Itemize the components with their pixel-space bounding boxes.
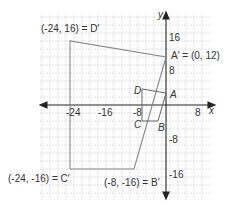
y-tick-label: -16 bbox=[169, 169, 184, 180]
y-tick-label: -8 bbox=[169, 134, 178, 145]
point-label-a: A bbox=[169, 89, 177, 100]
y-tick-label: 16 bbox=[169, 32, 181, 43]
y-axis-down-arrow-icon bbox=[163, 192, 169, 199]
x-tick-label: -16 bbox=[98, 107, 113, 118]
point-label-b-prime: (-8, -16) = B′ bbox=[104, 177, 160, 188]
y-axis-label: y bbox=[157, 9, 164, 20]
point-label-d-prime: (-24, 16) = D′ bbox=[41, 23, 99, 34]
point-label-d: D bbox=[134, 85, 141, 96]
point-label-c-prime: (-24, -16) = C′ bbox=[8, 173, 70, 184]
x-axis-left-arrow-icon bbox=[40, 102, 47, 108]
point-label-b: B bbox=[158, 122, 165, 133]
point-label-a-prime: A′ = (0, 12) bbox=[171, 50, 220, 61]
point-label-c: C bbox=[134, 119, 142, 130]
y-tick-label: 8 bbox=[169, 65, 175, 76]
x-tick-label: -24 bbox=[66, 107, 81, 118]
x-tick-label: -8 bbox=[133, 107, 142, 118]
x-tick-label: 8 bbox=[195, 107, 201, 118]
coordinate-plane: y x -24 -16 -8 8 16 8 -8 -16 (-24, 16) =… bbox=[0, 0, 231, 208]
y-axis-up-arrow-icon bbox=[163, 12, 169, 19]
x-axis-label: x bbox=[208, 105, 215, 116]
